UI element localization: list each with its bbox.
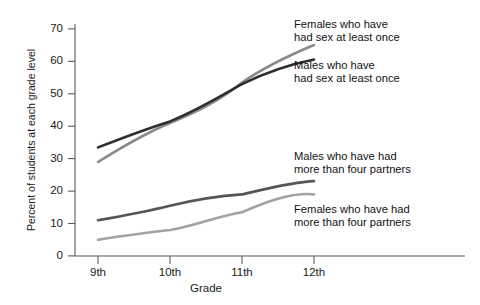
y-axis-title: Percent of students at each grade level — [25, 49, 37, 231]
annotation-males-sex: Males who have had sex at least once — [294, 59, 400, 84]
y-tick-label-70: 70 — [50, 22, 63, 34]
x-axis-ticks — [98, 256, 314, 264]
series-line-males-partners — [98, 181, 314, 220]
annotation-males-sex-line1: Males who have — [294, 59, 375, 71]
y-tick-label-0: 0 — [57, 249, 63, 261]
chart-container: 70 60 50 40 30 20 10 0 9th 10th 11th 12t… — [0, 0, 480, 305]
x-tick-label-9th: 9th — [90, 266, 106, 278]
y-tick-label-40: 40 — [50, 119, 63, 131]
y-tick-label-60: 60 — [50, 54, 63, 66]
line-chart: 70 60 50 40 30 20 10 0 9th 10th 11th 12t… — [0, 0, 480, 305]
annotation-females-sex: Females who have had sex at least once — [294, 18, 400, 43]
annotation-males-partners-line2: more than four partners — [294, 163, 411, 175]
annotation-females-sex-line1: Females who have — [294, 18, 388, 30]
series-line-females-partners — [98, 194, 314, 240]
annotation-males-partners: Males who have had more than four partne… — [294, 150, 411, 175]
x-tick-label-10th: 10th — [159, 266, 181, 278]
annotation-females-sex-line2: had sex at least once — [294, 31, 400, 43]
x-tick-label-11th: 11th — [231, 266, 253, 278]
y-tick-label-50: 50 — [50, 87, 63, 99]
y-axis-ticks — [68, 29, 75, 256]
y-tick-label-20: 20 — [50, 184, 63, 196]
annotation-males-partners-line1: Males who have had — [294, 150, 397, 162]
x-axis-title: Grade — [190, 282, 222, 294]
annotation-females-partners-line1: Females who have had — [294, 203, 410, 215]
x-tick-label-12th: 12th — [303, 266, 325, 278]
y-tick-label-10: 10 — [50, 217, 63, 229]
series-line-males-sex — [98, 60, 314, 148]
annotation-females-partners: Females who have had more than four part… — [294, 203, 411, 228]
annotation-females-partners-line2: more than four partners — [294, 216, 411, 228]
y-tick-label-30: 30 — [50, 152, 63, 164]
annotation-males-sex-line2: had sex at least once — [294, 72, 400, 84]
